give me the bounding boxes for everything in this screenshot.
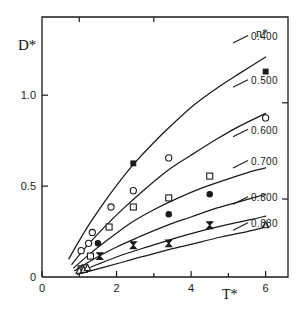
legend-leader-0.880	[233, 223, 248, 231]
data-point-open-square	[106, 224, 112, 230]
legend-leader-0.500	[233, 80, 248, 88]
x-tick-label: 2	[113, 282, 119, 294]
data-point-open-circle	[130, 188, 136, 194]
data-point-bowtie	[207, 222, 213, 229]
data-point-open-circle	[85, 240, 91, 246]
series-curve-0.800	[76, 216, 265, 273]
data-point-bowtie	[97, 253, 103, 260]
data-point-open-square	[130, 204, 136, 210]
data-point-open-circle	[166, 155, 172, 161]
legend-label-0.880: 0.880	[251, 218, 278, 229]
legend-leader-0.700	[233, 160, 248, 168]
x-tick-label: 4	[188, 282, 194, 294]
data-point-open-circle	[263, 115, 269, 121]
y-tick-label: 0	[30, 271, 36, 283]
data-point-filled-circle	[166, 212, 171, 217]
x-axis-label: T*	[222, 288, 238, 302]
data-point-open-square	[166, 195, 172, 201]
series-curve-0.700	[75, 194, 266, 270]
x-tick-label: 0	[39, 282, 45, 294]
y-tick-label: 0.5	[21, 180, 36, 192]
legend-leader-0.600	[233, 129, 248, 137]
legend-title: n*	[256, 26, 268, 40]
data-point-open-square	[207, 173, 213, 179]
data-point-open-circle	[89, 229, 95, 235]
data-point-bowtie	[166, 240, 172, 247]
figure: 024600.51.00.4000.5000.6000.7000.8000.88…	[0, 0, 305, 314]
data-point-filled-square	[263, 69, 268, 74]
y-axis-label: D*	[18, 38, 36, 53]
x-tick-label: 6	[263, 282, 269, 294]
data-point-open-circle	[108, 204, 114, 210]
legend-leader-0.400	[233, 36, 248, 44]
data-point-filled-circle	[95, 241, 100, 246]
y-tick-label: 1.0	[21, 89, 36, 101]
data-point-open-circle	[78, 248, 84, 254]
data-point-filled-circle	[207, 192, 212, 197]
legend-label-0.700: 0.700	[251, 156, 278, 167]
legend-label-0.800: 0.800	[251, 192, 278, 203]
legend-label-0.500: 0.500	[251, 75, 278, 86]
series-curve-0.880	[77, 227, 265, 274]
data-point-bowtie	[130, 242, 136, 249]
data-point-open-square	[87, 253, 93, 259]
plot-canvas: 024600.51.00.4000.5000.6000.7000.8000.88…	[0, 0, 305, 314]
legend-label-0.600: 0.600	[251, 125, 278, 136]
plot-frame	[42, 17, 288, 277]
data-point-filled-square	[131, 161, 136, 166]
